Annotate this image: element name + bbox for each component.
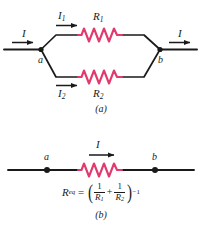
label-current-eq: I [96, 139, 100, 150]
equation-fraction-2-denominator: R2 [114, 193, 125, 203]
label-current-I2: I2 [58, 88, 65, 100]
equation-fraction-1-numerator: 1 [96, 182, 103, 192]
caption-panel-b: (b) [0, 209, 202, 220]
junction-node-a-dot [38, 47, 43, 52]
label-current-I1-sub: 1 [62, 14, 66, 23]
wire-top-branch-left [41, 35, 78, 50]
label-current-I1: I1 [58, 10, 65, 22]
label-node-a: a [38, 55, 43, 65]
caption-panel-a: (a) [0, 103, 202, 114]
equation-paren-close: ) [127, 184, 132, 200]
label-resistor-R2-base: R [93, 87, 100, 99]
physics-figure-parallel-resistors: I I I1 I2 R1 R2 a b (a) I a b Req = ( 1 … [0, 0, 202, 227]
label-node-b: b [158, 55, 163, 65]
label-resistor-R1-sub: 1 [100, 15, 104, 24]
equation-exponent: −1 [133, 189, 140, 196]
label-resistor-R2-sub: 2 [100, 92, 104, 101]
equation-equals-sign: = [77, 187, 84, 198]
equation-fraction-2-den-sub: 2 [121, 195, 124, 202]
resistor-Req-symbol [78, 164, 122, 177]
wire-bottom-branch-right [122, 50, 160, 78]
panel-a-circuit [4, 26, 197, 86]
label-current-input: I [22, 28, 26, 39]
equation-req: Req = ( 1 R1 + 1 R2 )−1 [0, 182, 202, 203]
wire-bottom-branch-left [41, 50, 78, 78]
label-resistor-R1: R1 [93, 11, 103, 23]
label-current-output: I [178, 28, 182, 39]
junction-node-b-dot-b [152, 167, 158, 173]
resistor-R2-symbol [78, 71, 122, 84]
equation-lhs: R [62, 187, 69, 198]
equation-fraction-1-denominator: R1 [94, 193, 105, 203]
equation-fraction-1-den-sub: 1 [101, 195, 104, 202]
label-node-a-b: a [44, 152, 49, 162]
equation-fraction-2-numerator: 1 [116, 182, 123, 192]
panel-b-circuit [8, 155, 194, 177]
equation-fraction-2: 1 R2 [114, 182, 125, 203]
resistor-R1-symbol [78, 29, 122, 42]
equation-paren-open: ( [88, 184, 93, 200]
label-resistor-R1-base: R [93, 10, 100, 22]
equation-plus-operator: + [107, 187, 113, 197]
equation-lhs-sub: eq [69, 189, 75, 196]
junction-node-a-dot-b [44, 167, 50, 173]
junction-node-b-dot [157, 47, 162, 52]
label-resistor-R2: R2 [93, 88, 103, 100]
label-node-b-b: b [152, 152, 157, 162]
label-current-I2-sub: 2 [62, 92, 66, 101]
wire-top-branch-right [122, 35, 160, 50]
equation-fraction-1: 1 R1 [94, 182, 105, 203]
